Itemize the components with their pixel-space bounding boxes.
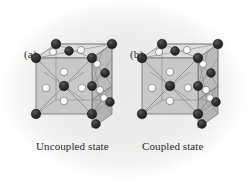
caption-uncoupled-state: Uncoupled state <box>36 140 109 152</box>
figure-container: (a) (b) Uncoupled state Coupled state <box>0 0 248 180</box>
unit-cell-coupled <box>137 39 223 128</box>
lattice-diagram <box>0 0 248 180</box>
panel-label-b: (b) <box>130 48 143 60</box>
caption-coupled-state: Coupled state <box>142 140 203 152</box>
panel-label-a: (a) <box>24 48 37 60</box>
unit-cell-uncoupled <box>31 39 117 128</box>
